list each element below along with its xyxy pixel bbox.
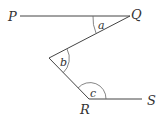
label-s: S	[147, 93, 156, 108]
segment-vertex-r	[49, 58, 89, 99]
angle-label-a: a	[98, 19, 105, 32]
segment-q-vertex	[49, 16, 130, 58]
angle-diagram: P Q R S a b c	[0, 0, 165, 128]
angle-arc-a	[93, 16, 96, 33]
angle-label-c: c	[90, 87, 96, 100]
label-p: P	[7, 9, 17, 24]
label-q: Q	[131, 7, 142, 22]
label-r: R	[79, 102, 90, 117]
angle-label-b: b	[60, 56, 67, 69]
